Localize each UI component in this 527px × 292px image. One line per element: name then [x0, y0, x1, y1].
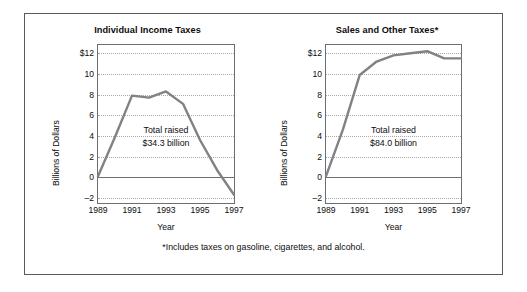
y-axis-tick-right-4: 4	[317, 131, 322, 141]
chart-panel-sales-and-other-taxes: Sales and Other Taxes* Billions of Dolla…	[270, 14, 504, 274]
annotation-left-line1: Total raised	[97, 124, 235, 137]
x-axis-tick-left-1993: 1993	[156, 205, 175, 215]
y-axis-tick-left--2: –2	[84, 193, 94, 203]
y-axis-tick-right-10: 10	[312, 69, 322, 79]
y-axis-tick-left-10: 10	[84, 69, 94, 79]
y-axis-label-left: Billions of Dollars	[51, 120, 61, 186]
x-axis-tick-right-1995: 1995	[418, 205, 437, 215]
annotation-left-line2: $34.3 billion	[97, 137, 235, 150]
x-axis-tick-right-1991: 1991	[350, 205, 369, 215]
annotation-left: Total raised $34.3 billion	[97, 124, 235, 149]
x-axis-tick-left-1995: 1995	[190, 205, 209, 215]
x-axis-tick-right-1997: 1997	[451, 205, 470, 215]
x-axis-tick-right-1989: 1989	[316, 205, 335, 215]
y-axis-tick-left-2: 2	[89, 152, 94, 162]
x-axis-tick-right-1993: 1993	[384, 205, 403, 215]
y-axis-tick-left-8: 8	[89, 90, 94, 100]
y-axis-tick-right-8: 8	[317, 90, 322, 100]
x-axis-tick-left-1991: 1991	[122, 205, 141, 215]
x-axis-tick-left-1997: 1997	[224, 205, 243, 215]
y-axis-tick-left-12: $12	[80, 48, 94, 58]
x-axis-label-left: Year	[97, 222, 235, 232]
figure-frame: Individual Income Taxes Billions of Doll…	[24, 13, 503, 275]
y-axis-tick-left-4: 4	[89, 131, 94, 141]
y-axis-tick-left-0: 0	[89, 172, 94, 182]
chart-panel-individual-income-taxes: Individual Income Taxes Billions of Doll…	[25, 14, 270, 274]
y-axis-tick-right-12: $12	[308, 48, 322, 58]
annotation-right-line2: $84.0 billion	[325, 137, 462, 150]
annotation-right-line1: Total raised	[325, 124, 462, 137]
y-axis-tick-right-2: 2	[317, 152, 322, 162]
x-axis-label-right: Year	[325, 222, 462, 232]
figure-footnote: *Includes taxes on gasoline, cigarettes,…	[25, 242, 502, 252]
chart-title-left: Individual Income Taxes	[25, 25, 270, 35]
chart-title-right: Sales and Other Taxes*	[270, 25, 504, 35]
series-polyline	[326, 51, 461, 176]
y-axis-tick-left-6: 6	[89, 110, 94, 120]
y-axis-tick-right-0: 0	[317, 172, 322, 182]
y-axis-tick-right-6: 6	[317, 110, 322, 120]
y-axis-tick-right--2: –2	[312, 193, 322, 203]
x-axis-tick-left-1989: 1989	[88, 205, 107, 215]
annotation-right: Total raised $84.0 billion	[325, 124, 462, 149]
y-axis-label-right: Billions of Dollars	[279, 120, 289, 186]
